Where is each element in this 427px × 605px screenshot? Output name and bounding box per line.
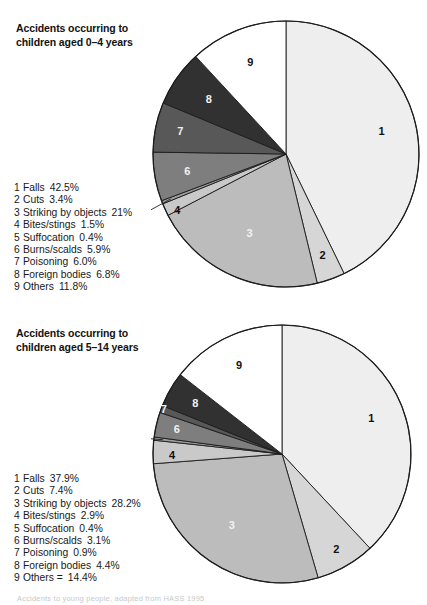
legend-item-label: Falls [23,473,45,484]
legend-item-5-14-5: 5Suffocation0.4% [14,523,141,535]
legend-item-number: 5 [14,232,23,244]
legend-item-percent: 0.9% [68,547,96,558]
chart-panel-ages-0-4: Accidents occurring to children aged 0–4… [0,0,427,305]
legend-item-label: Burns/scalds [23,244,82,255]
legend-item-0-4-7: 7Poisoning6.0% [14,256,132,268]
legend-item-0-4-6: 6Burns/scalds5.9% [14,244,132,256]
legend-item-label: Suffocation [23,232,74,243]
legend-item-percent: 3.4% [44,194,72,205]
legend-item-percent: 5.9% [82,244,110,255]
legend-item-5-14-6: 6Burns/scalds3.1% [14,535,141,547]
pie-slice-label-5-14-8: 8 [192,397,198,409]
legend-item-label: Striking by objects [23,207,107,218]
pie-slice-label-5-14-9: 9 [236,359,242,371]
chart-title-line-1: Accidents occurring to [16,327,128,339]
legend-item-0-4-1: 1Falls42.5% [14,182,132,194]
legend-item-0-4-9: 9Others11.8% [14,281,132,293]
legend-item-percent: 7.4% [44,485,72,496]
legend-item-5-14-2: 2Cuts7.4% [14,485,141,497]
legend-item-5-14-8: 8Foreign bodies4.4% [14,560,141,572]
legend-item-number: 3 [14,207,23,219]
legend-item-5-14-1: 1Falls37.9% [14,473,141,485]
legend-item-label: Poisoning [23,256,68,267]
pie-svg-0-4: 123456789 [151,19,421,289]
legend-item-5-14-4: 4Bites/stings2.9% [14,510,141,522]
legend-item-number: 7 [14,547,23,559]
legend-item-number: 6 [14,244,23,256]
pie-slice-label-5-14-2: 2 [333,543,339,555]
legend-item-label: Bites/stings [23,219,76,230]
pie-slice-label-0-4-6: 6 [184,165,190,177]
pie-chart-ages-5-14: 123456789 [151,323,413,585]
pie-slice-label-0-4-4: 4 [174,204,181,216]
legend-item-number: 9 [14,281,23,293]
legend-item-number: 6 [14,535,23,547]
legend-item-percent: 42.5% [45,182,79,193]
legend-item-label: Suffocation [23,523,74,534]
pie-chart-ages-0-4: 123456789 [151,19,421,289]
legend-item-number: 2 [14,194,23,206]
legend-item-percent: 37.9% [45,473,79,484]
legend-item-percent: 21% [107,207,133,218]
legend-item-number: 4 [14,219,23,231]
chart-title-line-1: Accidents occurring to [16,22,128,34]
legend-item-label: Poisoning [23,547,68,558]
legend-item-label: Foreign bodies [23,269,91,280]
legend-item-percent: 6.8% [91,269,119,280]
legend-item-number: 8 [14,269,23,281]
legend-item-number: 2 [14,485,23,497]
legend-item-label: Burns/scalds [23,535,82,546]
legend-item-0-4-8: 8Foreign bodies6.8% [14,269,132,281]
legend-item-percent: 0.4% [74,232,102,243]
legend-item-label: Foreign bodies [23,560,91,571]
legend-item-percent: 11.8% [54,281,87,292]
legend-item-label: Cuts [23,194,44,205]
legend-item-percent: 2.9% [76,510,104,521]
pie-slice-label-5-14-6: 6 [174,423,180,435]
legend-item-label: Striking by objects [23,498,107,509]
legend-item-label: Cuts [23,485,44,496]
legend-item-percent: 4.4% [91,560,119,571]
legend-item-label: Others = [23,572,63,583]
legend-item-0-4-2: 2Cuts3.4% [14,194,132,206]
chart-title-line-2: children aged 5–14 years [16,341,139,353]
legend-item-percent: 6.0% [68,256,96,267]
legend-item-5-14-3: 3Striking by objects28.2% [14,498,141,510]
legend-item-percent: 14.4% [63,572,97,583]
legend-item-number: 5 [14,523,23,535]
legend-item-number: 1 [14,473,23,485]
legend-item-number: 4 [14,510,23,522]
legend-item-number: 3 [14,498,23,510]
legend-item-percent: 28.2% [107,498,141,509]
legend-item-number: 9 [14,572,23,584]
legend-item-label: Bites/stings [23,510,76,521]
pie-slice-label-0-4-1: 1 [378,125,384,137]
legend-item-percent: 1.5% [76,219,104,230]
pie-slice-label-0-4-2: 2 [319,249,325,261]
figure-footnote: Accidents to young people, adapted from … [17,594,204,603]
legend-item-0-4-5: 5Suffocation0.4% [14,232,132,244]
legend-item-number: 1 [14,182,23,194]
legend-item-label: Others [23,281,54,292]
legend-item-label: Falls [23,182,45,193]
chart-legend-ages-0-4: 1Falls42.5%2Cuts3.4%3Striking by objects… [14,182,132,294]
legend-item-number: 7 [14,256,23,268]
legend-item-number: 8 [14,560,23,572]
pie-slice-label-0-4-8: 8 [206,93,212,105]
legend-item-0-4-3: 3Striking by objects21% [14,207,132,219]
pie-slice-label-0-4-3: 3 [246,227,252,239]
legend-item-percent: 0.4% [74,523,102,534]
chart-legend-ages-5-14: 1Falls37.9%2Cuts7.4%3Striking by objects… [14,473,141,585]
pie-svg-5-14: 123456789 [151,323,413,585]
pie-slice-label-0-4-9: 9 [247,56,253,68]
pie-slice-label-5-14-4: 4 [169,449,176,461]
chart-title-line-2: children aged 0–4 years [16,36,133,48]
pie-slice-label-5-14-7: 7 [161,403,167,415]
legend-item-0-4-4: 4Bites/stings1.5% [14,219,132,231]
pie-slice-label-5-14-1: 1 [368,412,374,424]
pie-slice-label-0-4-7: 7 [177,125,183,137]
legend-item-5-14-7: 7Poisoning0.9% [14,547,141,559]
legend-item-percent: 3.1% [82,535,110,546]
pie-slice-label-5-14-3: 3 [229,519,235,531]
legend-item-5-14-9: 9Others =14.4% [14,572,141,584]
